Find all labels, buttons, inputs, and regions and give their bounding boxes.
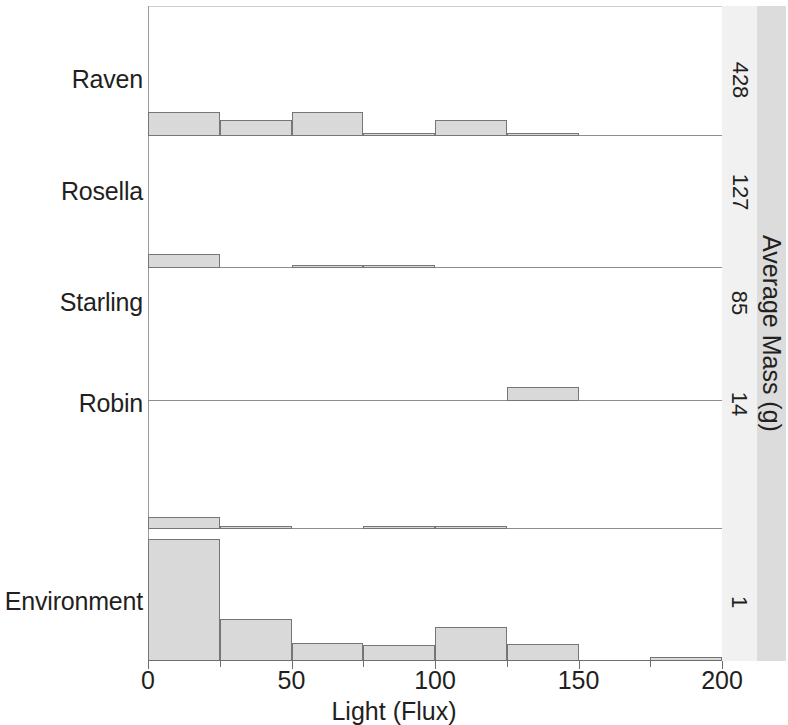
- x-tick-minor: [220, 661, 221, 667]
- bar: [220, 120, 292, 136]
- bar: [507, 644, 579, 661]
- bar: [363, 526, 435, 529]
- bar: [363, 133, 435, 136]
- x-tick-label: 200: [701, 666, 743, 694]
- category-label-environment: Environment: [5, 589, 143, 614]
- x-tick-minor: [507, 661, 508, 667]
- strip-axis-title-text: Average Mass (g): [759, 235, 784, 432]
- bar: [148, 400, 220, 401]
- x-tick-label: 150: [558, 666, 600, 694]
- histogram-row-raven: [148, 135, 722, 136]
- bar: [363, 645, 435, 661]
- bar: [220, 619, 292, 661]
- x-tick-minor: [363, 661, 364, 667]
- plot-area: [148, 6, 722, 661]
- bar: [220, 400, 292, 401]
- bar: [148, 539, 220, 661]
- bar: [579, 400, 651, 401]
- bar: [650, 528, 722, 529]
- bar: [220, 526, 292, 529]
- bar: [292, 400, 364, 401]
- strip-value-panel: 42812785141: [722, 6, 757, 661]
- strip-axis-title: Average Mass (g): [757, 6, 786, 661]
- bar: [292, 265, 364, 268]
- bar: [435, 120, 507, 136]
- strip-value-starling: 85: [722, 292, 757, 314]
- bar: [579, 267, 651, 268]
- panel-top-border: [148, 6, 722, 7]
- chart-container: RavenRosellaStarlingRobinEnvironment 050…: [0, 0, 788, 725]
- x-tick-label: 50: [278, 666, 306, 694]
- category-label-starling: Starling: [60, 290, 143, 315]
- strip-value-robin: 14: [722, 393, 757, 415]
- strip-value-text: 428: [729, 62, 751, 99]
- histogram-row-robin: [148, 528, 722, 529]
- bar: [650, 400, 722, 401]
- bar: [220, 267, 292, 268]
- category-label-robin: Robin: [79, 391, 143, 416]
- bar: [292, 643, 364, 661]
- bar: [507, 267, 579, 268]
- x-axis-title: Light (Flux): [0, 698, 788, 725]
- bar: [435, 627, 507, 661]
- bar: [292, 528, 364, 529]
- x-tick-label: 100: [414, 666, 456, 694]
- strip-value-environment: 1: [722, 591, 757, 613]
- histogram-row-starling: [148, 400, 722, 401]
- strip-value-text: 14: [728, 392, 750, 416]
- x-tick-label: 0: [141, 666, 155, 694]
- bar: [507, 133, 579, 136]
- bar: [363, 265, 435, 268]
- category-label-raven: Raven: [72, 67, 143, 92]
- strip-value-text: 85: [728, 291, 750, 315]
- strip-value-text: 127: [729, 174, 751, 211]
- bar: [507, 528, 579, 529]
- bar: [507, 387, 579, 401]
- bar: [148, 254, 220, 268]
- strip-value-text: 1: [729, 596, 751, 608]
- bar: [148, 517, 220, 529]
- x-tick-minor: [650, 661, 651, 667]
- bar: [650, 267, 722, 268]
- bar: [148, 112, 220, 136]
- bar: [579, 135, 651, 136]
- bar: [579, 528, 651, 529]
- strip-value-raven: 428: [722, 69, 757, 91]
- bar: [363, 400, 435, 401]
- bar: [435, 400, 507, 401]
- strip-value-rosella: 127: [722, 181, 757, 203]
- histogram-row-rosella: [148, 267, 722, 268]
- bar: [650, 135, 722, 136]
- category-label-rosella: Rosella: [61, 179, 143, 204]
- bar: [435, 267, 507, 268]
- bar: [292, 112, 364, 136]
- bar: [435, 526, 507, 529]
